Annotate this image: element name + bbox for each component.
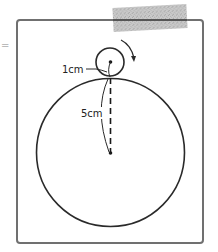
small-radius-label: 1cm xyxy=(62,64,84,75)
small-radius-line xyxy=(109,62,111,77)
edge-mark: = xyxy=(1,40,9,51)
small-radius-leader xyxy=(86,69,107,72)
arrowhead-icon xyxy=(131,56,136,62)
diagram-canvas: = 1cm 5cm xyxy=(0,0,218,252)
tape-strip xyxy=(112,4,187,32)
large-radius-label: 5cm xyxy=(81,108,103,119)
